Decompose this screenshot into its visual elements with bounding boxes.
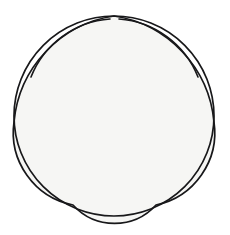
figure-canvas [0, 0, 230, 235]
geometric-figure-svg [0, 0, 230, 235]
